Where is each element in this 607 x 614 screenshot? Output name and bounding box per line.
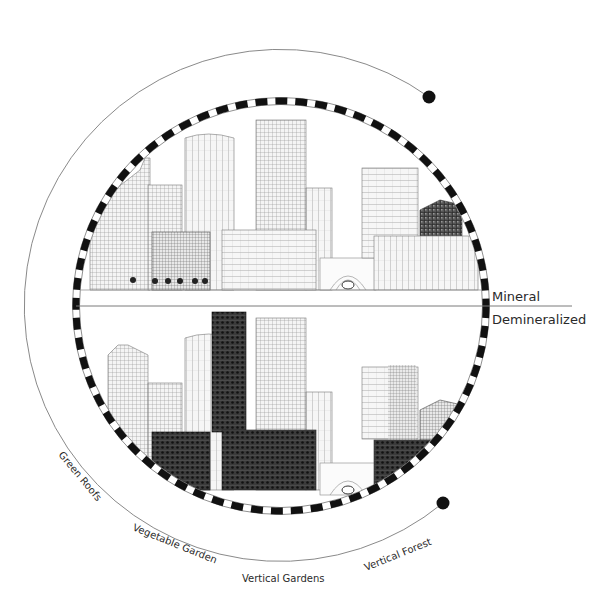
label-green-roofs: Green Roofs <box>56 449 104 503</box>
label-vertical-forest: Vertical Forest <box>363 536 433 573</box>
demineralized-skyline <box>108 312 478 495</box>
label-vertical-gardens: Vertical Gardens <box>242 573 324 584</box>
top-end-dot <box>423 91 436 104</box>
bottom-end-dot <box>437 497 450 510</box>
mineral-skyline <box>76 120 486 290</box>
label-mineral: Mineral <box>492 289 540 304</box>
label-vegetable-garden: Vegetable Garden <box>131 522 218 566</box>
label-demineralized: Demineralized <box>492 312 586 327</box>
skyline-illustration <box>76 120 486 495</box>
urban-greening-diagram: Mineral Demineralized Green Roofs Vegeta… <box>0 0 607 614</box>
